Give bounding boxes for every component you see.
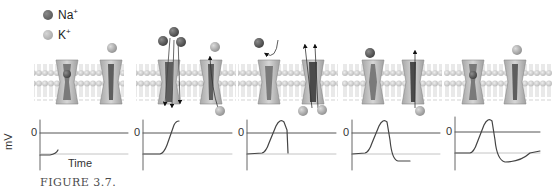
- zero-label-3: 0: [238, 126, 244, 138]
- zero-label-1: 0: [31, 126, 37, 138]
- graph-2: [143, 120, 232, 170]
- potassium-ion-icon: [415, 106, 425, 116]
- graphs: [40, 117, 540, 170]
- potassium-ion-icon: [298, 106, 308, 116]
- sodium-ion-icon: [169, 27, 179, 37]
- zero-label-4: 0: [343, 126, 349, 138]
- zero-label-5: 0: [446, 125, 452, 137]
- figure-caption: FIGURE 3.7.: [40, 176, 116, 189]
- graph-5: [455, 117, 540, 170]
- sodium-ion-icon: [158, 36, 168, 46]
- sodium-ion-icon: [254, 38, 264, 48]
- potassium-ion-icon: [107, 43, 117, 53]
- sodium-ion-icon: [365, 48, 375, 58]
- graph-4: [352, 120, 440, 170]
- x-axis-label: Time: [68, 157, 92, 169]
- sodium-ion-icon: [176, 37, 186, 47]
- zero-label-2: 0: [134, 126, 140, 138]
- potassium-ion-icon: [317, 105, 327, 115]
- y-axis-label: mV: [2, 134, 14, 151]
- potassium-ion-icon: [210, 42, 220, 52]
- potassium-ion-icon: [512, 45, 522, 55]
- graph-3: [247, 120, 336, 170]
- potassium-ion-icon: [215, 106, 225, 116]
